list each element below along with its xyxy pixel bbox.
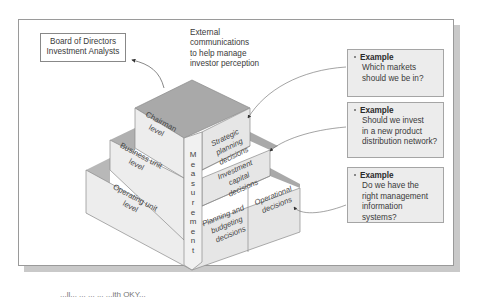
example-line: in a new product (354, 127, 439, 137)
arrow-to-board (132, 60, 164, 88)
bullet-icon (354, 174, 356, 176)
business-tier-top (248, 132, 278, 150)
ext-line-1: External (190, 28, 300, 38)
example-title: Example (360, 53, 394, 62)
ext-line-2: communications (190, 38, 300, 48)
example-line: Should we invest (354, 116, 439, 126)
example-box-information-systems: Example Do we have the right management … (347, 167, 444, 223)
arrow-operational (294, 205, 346, 213)
board-of-directors-box: Board of Directors Investment Analysts (40, 33, 126, 62)
ext-line-4: investor perception (190, 59, 300, 69)
bullet-icon (354, 56, 356, 58)
figure-caption: ...ll... ... ... ... ...ith OKY... (60, 290, 146, 297)
example-line: should we be in? (354, 74, 439, 84)
example-line: right management (354, 192, 439, 202)
example-title: Example (360, 171, 394, 180)
bullet-icon (354, 109, 356, 111)
example-box-investment: Example Should we invest in a new produc… (347, 102, 444, 158)
example-line: Which markets (354, 63, 439, 73)
ext-line-3: to help manage (190, 49, 300, 59)
example-title: Example (360, 106, 394, 115)
arrow-investment (270, 127, 346, 151)
example-line: Do we have the (354, 181, 439, 191)
board-line-1: Board of Directors (41, 37, 125, 47)
example-line: distribution network? (354, 137, 439, 147)
example-line: information systems? (354, 202, 439, 223)
board-line-2: Investment Analysts (41, 47, 125, 57)
external-communications-note: External communications to help manage i… (190, 28, 300, 70)
arrow-strategic (248, 67, 346, 118)
example-box-markets: Example Which markets should we be in? (347, 49, 444, 97)
